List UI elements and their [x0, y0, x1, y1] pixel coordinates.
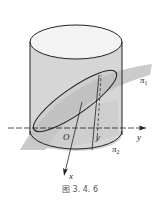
plane2-label: π2 [112, 144, 120, 155]
y-axis-arrow-icon [139, 126, 146, 131]
y-axis-label: y [136, 132, 141, 142]
figure-caption: 图 3. 4. 6 [62, 185, 98, 194]
origin-label: O [63, 132, 70, 142]
plane1-label: π1 [140, 75, 148, 86]
x-axis-label: x [68, 171, 73, 181]
figure-diagram: O y y x π1 π2 图 3. 4. 6 [0, 0, 163, 203]
cylinder-top-ellipse [30, 25, 122, 59]
y-point-label: y [95, 132, 100, 142]
